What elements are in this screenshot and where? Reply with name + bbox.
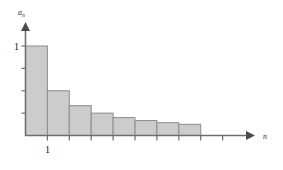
bar (157, 123, 179, 136)
bar (91, 113, 113, 135)
harmonic-bar-chart: 1 1 an n (0, 0, 283, 170)
x-axis-label: n (263, 132, 267, 141)
bar (179, 124, 201, 135)
chart-figure: 1 1 an n (0, 0, 283, 170)
bar (69, 106, 91, 136)
bar (113, 118, 135, 136)
y-axis-label-subscript: n (22, 12, 25, 18)
y-tick-label-one: 1 (14, 41, 19, 52)
bar (26, 46, 48, 136)
bar (47, 91, 69, 136)
x-tick-label-one: 1 (45, 144, 50, 155)
bar (135, 121, 157, 136)
